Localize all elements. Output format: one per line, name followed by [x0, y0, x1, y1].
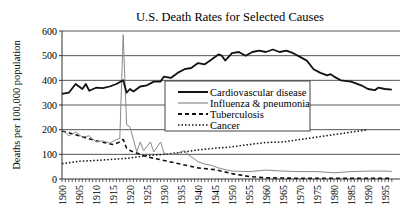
x-tick-label: 1930 — [159, 185, 170, 205]
y-tick-label: 0 — [52, 174, 57, 185]
y-tick-label: 600 — [42, 26, 57, 37]
y-tick-label: 100 — [42, 149, 57, 160]
y-tick-label: 300 — [42, 100, 57, 111]
legend: Cardiovascular disease Influenza & pneum… — [165, 81, 310, 131]
x-tick-label: 1915 — [108, 185, 119, 205]
legend-label-tuberculosis: Tuberculosis — [210, 109, 264, 120]
x-tick-label: 1925 — [142, 185, 153, 205]
x-tick-label: 1960 — [261, 185, 272, 205]
legend-label-cardiovascular: Cardiovascular disease — [210, 87, 307, 98]
x-axis: 1900190519101915192019251930193519401945… — [57, 179, 392, 205]
x-tick-label: 1980 — [329, 185, 340, 205]
x-tick-label: 1950 — [227, 185, 238, 205]
x-tick-label: 1905 — [74, 185, 85, 205]
x-tick-label: 1940 — [193, 185, 204, 205]
y-tick-label: 400 — [42, 75, 57, 86]
x-tick-label: 1965 — [278, 185, 289, 205]
x-tick-label: 1985 — [346, 185, 357, 205]
line-chart: U.S. Death Rates for Selected Causes 010… — [0, 0, 415, 221]
x-tick-label: 1975 — [312, 185, 323, 205]
legend-label-cancer: Cancer — [210, 120, 240, 131]
legend-label-influenza: Influenza & pneumonia — [210, 98, 310, 109]
x-tick-label: 1900 — [57, 185, 68, 205]
x-tick-label: 1920 — [125, 185, 136, 205]
y-tick-label: 200 — [42, 124, 57, 135]
x-tick-label: 1910 — [91, 185, 102, 205]
y-axis-label: Deaths per 100,000 population — [11, 40, 22, 170]
x-tick-label: 1990 — [363, 185, 374, 205]
x-tick-label: 1970 — [295, 185, 306, 205]
x-tick-label: 1945 — [210, 185, 221, 205]
series-line-cancer — [62, 130, 368, 164]
chart-title: U.S. Death Rates for Selected Causes — [136, 10, 324, 24]
y-tick-label: 500 — [42, 50, 57, 61]
x-tick-label: 1995 — [380, 185, 391, 205]
y-axis: 0100200300400500600 — [42, 26, 62, 185]
x-tick-label: 1955 — [244, 185, 255, 205]
x-tick-label: 1935 — [176, 185, 187, 205]
